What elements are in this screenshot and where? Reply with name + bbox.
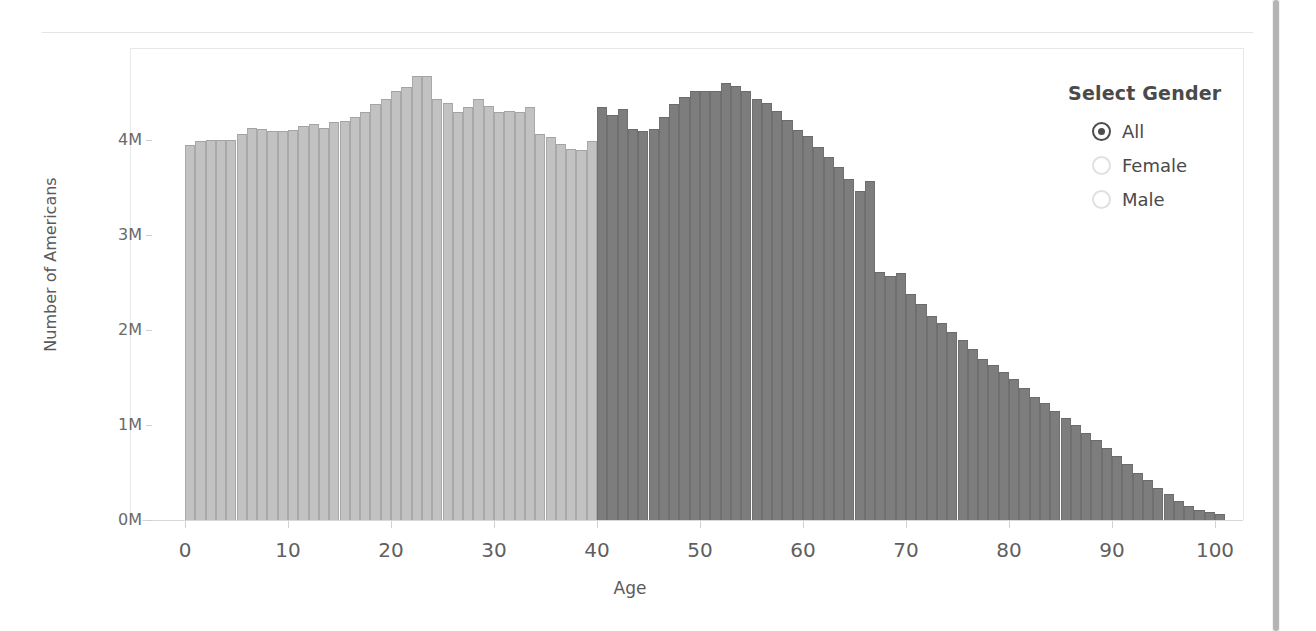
bar-age-41[interactable] [607, 115, 617, 520]
bar-age-11[interactable] [298, 126, 308, 520]
gender-radio-female[interactable]: Female [1068, 148, 1248, 182]
bar-age-4[interactable] [226, 140, 236, 520]
bar-age-8[interactable] [267, 131, 277, 520]
bar-age-31[interactable] [504, 111, 514, 520]
bar-age-69[interactable] [896, 273, 906, 520]
bar-age-49[interactable] [690, 91, 700, 520]
bar-age-12[interactable] [309, 124, 319, 520]
bar-age-19[interactable] [381, 99, 391, 520]
bar-age-42[interactable] [618, 109, 628, 520]
bar-age-44[interactable] [638, 131, 648, 521]
bar-age-17[interactable] [360, 112, 370, 521]
bar-age-56[interactable] [762, 103, 772, 520]
bar-age-38[interactable] [576, 150, 586, 520]
bar-age-20[interactable] [391, 91, 401, 520]
bar-age-40[interactable] [597, 107, 607, 520]
bar-age-53[interactable] [731, 86, 741, 520]
bar-age-80[interactable] [1009, 379, 1019, 520]
bar-age-52[interactable] [721, 83, 731, 520]
bar-age-60[interactable] [803, 136, 813, 520]
bar-age-32[interactable] [515, 112, 525, 520]
bar-age-98[interactable] [1194, 510, 1204, 520]
bar-age-6[interactable] [247, 128, 257, 520]
bar-age-94[interactable] [1153, 488, 1163, 520]
bar-age-18[interactable] [370, 104, 380, 520]
bar-age-25[interactable] [443, 103, 453, 520]
gender-radio-group[interactable]: AllFemaleMale [1068, 114, 1248, 216]
bar-age-84[interactable] [1050, 411, 1060, 520]
bar-age-58[interactable] [782, 120, 792, 520]
bar-age-33[interactable] [525, 107, 535, 520]
bar-age-7[interactable] [257, 129, 267, 520]
bar-age-48[interactable] [679, 97, 689, 520]
bar-age-97[interactable] [1184, 506, 1194, 520]
bar-age-1[interactable] [195, 141, 205, 520]
bar-age-61[interactable] [813, 147, 823, 520]
radio-button-icon[interactable] [1092, 122, 1111, 141]
bar-age-43[interactable] [628, 129, 638, 520]
bar-age-71[interactable] [916, 304, 926, 520]
bar-age-2[interactable] [206, 140, 216, 520]
bar-age-89[interactable] [1102, 448, 1112, 520]
bar-age-39[interactable] [587, 141, 597, 520]
gender-radio-all[interactable]: All [1068, 114, 1248, 148]
radio-button-icon[interactable] [1092, 156, 1111, 175]
bar-age-5[interactable] [237, 134, 247, 520]
bar-age-74[interactable] [947, 332, 957, 520]
bar-age-65[interactable] [855, 191, 865, 520]
bar-age-16[interactable] [350, 117, 360, 520]
bar-age-83[interactable] [1040, 403, 1050, 520]
bar-age-81[interactable] [1019, 388, 1029, 520]
bar-age-37[interactable] [566, 149, 576, 520]
bar-age-73[interactable] [937, 323, 947, 520]
bar-age-46[interactable] [659, 117, 669, 520]
bar-age-66[interactable] [865, 181, 875, 520]
bar-age-75[interactable] [958, 340, 968, 520]
gender-radio-male[interactable]: Male [1068, 182, 1248, 216]
bar-age-50[interactable] [700, 91, 710, 520]
bar-age-82[interactable] [1030, 397, 1040, 521]
bar-age-72[interactable] [927, 316, 937, 520]
bar-age-34[interactable] [535, 134, 545, 520]
bar-age-85[interactable] [1061, 418, 1071, 520]
bar-age-28[interactable] [473, 99, 483, 520]
bar-age-76[interactable] [968, 349, 978, 520]
bar-age-21[interactable] [401, 87, 411, 520]
bar-age-55[interactable] [752, 99, 762, 520]
bar-age-3[interactable] [216, 140, 226, 520]
bar-age-87[interactable] [1081, 433, 1091, 520]
bar-age-90[interactable] [1112, 456, 1122, 520]
bar-age-100[interactable] [1215, 514, 1225, 520]
bar-age-62[interactable] [824, 157, 834, 520]
bar-age-24[interactable] [432, 99, 442, 520]
bar-age-14[interactable] [329, 122, 339, 520]
bar-age-77[interactable] [978, 359, 988, 521]
bar-age-99[interactable] [1205, 512, 1215, 520]
bar-age-96[interactable] [1174, 501, 1184, 520]
bar-age-95[interactable] [1164, 494, 1174, 520]
bar-age-92[interactable] [1133, 473, 1143, 521]
bar-age-57[interactable] [772, 111, 782, 520]
bar-age-51[interactable] [710, 91, 720, 520]
bar-age-86[interactable] [1071, 425, 1081, 520]
bar-age-9[interactable] [278, 131, 288, 520]
bar-age-29[interactable] [484, 106, 494, 520]
bar-age-26[interactable] [453, 112, 463, 521]
bar-age-47[interactable] [669, 104, 679, 520]
bar-age-0[interactable] [185, 145, 195, 520]
bar-age-23[interactable] [422, 76, 432, 520]
bar-age-68[interactable] [885, 276, 895, 520]
vertical-scrollbar-thumb[interactable] [1273, 0, 1279, 631]
bar-age-79[interactable] [999, 372, 1009, 520]
bar-age-27[interactable] [463, 107, 473, 520]
bar-age-91[interactable] [1122, 464, 1132, 520]
bar-age-22[interactable] [412, 76, 422, 520]
radio-button-icon[interactable] [1092, 190, 1111, 209]
bar-age-78[interactable] [988, 365, 998, 520]
bar-age-13[interactable] [319, 128, 329, 520]
bar-age-59[interactable] [793, 130, 803, 520]
bar-age-10[interactable] [288, 130, 298, 520]
bar-age-36[interactable] [556, 144, 566, 520]
bar-age-15[interactable] [340, 121, 350, 520]
bar-age-35[interactable] [546, 137, 556, 520]
